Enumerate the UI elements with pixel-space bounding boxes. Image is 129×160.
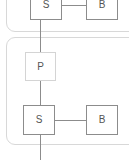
node-b-top[interactable]: B [86, 0, 118, 20]
node-s-bottom[interactable]: S [23, 105, 55, 135]
edge-s-bottom-outflow [40, 135, 41, 160]
node-b-bottom[interactable]: B [86, 105, 118, 135]
edge-p-to-s-bottom [40, 81, 41, 105]
node-p[interactable]: P [25, 52, 56, 81]
diagram-canvas: S B P S B [0, 0, 129, 160]
node-s-bottom-label: S [36, 115, 43, 125]
edge-s-bottom-to-b-bottom [55, 120, 86, 121]
edge-s-top-to-b-top [62, 5, 86, 6]
node-p-label: P [37, 62, 44, 72]
edge-s-top-to-p [40, 20, 41, 52]
node-b-bottom-label: B [99, 115, 106, 125]
node-b-top-label: B [99, 0, 106, 10]
node-s-top-label: S [43, 0, 50, 10]
node-s-top[interactable]: S [30, 0, 62, 20]
